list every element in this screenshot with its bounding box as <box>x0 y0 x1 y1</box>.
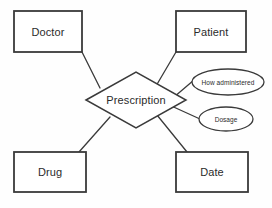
entity-box-patient[interactable] <box>176 11 246 52</box>
er-diagram-canvas: Doctor Patient Drug Date Prescription Ho… <box>0 0 272 208</box>
connector-patient-prescription <box>156 52 176 86</box>
entity-box-date[interactable] <box>176 152 248 192</box>
entity-box-doctor[interactable] <box>14 11 82 52</box>
connector-drug-prescription <box>79 117 110 152</box>
er-diagram-svg <box>0 0 272 208</box>
entity-box-drug[interactable] <box>14 152 86 192</box>
connector-doctor-prescription <box>82 52 100 88</box>
connector-date-prescription <box>157 115 187 152</box>
attribute-ellipse-how-administered[interactable] <box>192 69 264 95</box>
relationship-diamond-prescription[interactable] <box>86 72 186 128</box>
attribute-ellipse-dosage[interactable] <box>199 107 253 131</box>
